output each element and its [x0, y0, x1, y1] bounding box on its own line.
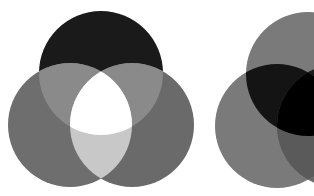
subtractive-venn-diagram — [215, 12, 314, 188]
venn-diagrams-canvas — [0, 0, 314, 196]
additive-venn-diagram — [8, 11, 194, 187]
